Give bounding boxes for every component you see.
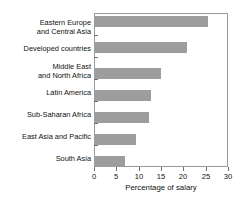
bar-developed-countries — [94, 42, 187, 53]
x-tick-30 — [228, 167, 229, 171]
x-tick-label-0: 0 — [84, 172, 104, 181]
bar-chart: Eastern Europe and Central Asia Develope… — [0, 0, 241, 199]
x-tick-label-15: 15 — [151, 172, 171, 181]
y-tick-4 — [94, 123, 98, 124]
x-tick-label-10: 10 — [129, 172, 149, 181]
y-tick-2 — [94, 79, 98, 80]
x-tick-0 — [94, 167, 95, 171]
x-tick-10 — [139, 167, 140, 171]
y-tick-5 — [94, 145, 98, 146]
y-tick-3 — [94, 101, 98, 102]
bar-latin-america — [94, 90, 151, 101]
bar-sub-saharan-africa — [94, 112, 149, 123]
category-label-4: Sub-Saharan Africa — [3, 111, 91, 120]
x-tick-5 — [116, 167, 117, 171]
category-label-1: Developed countries — [3, 45, 91, 54]
category-label-2: Middle East and North Africa — [3, 63, 91, 80]
bar-south-asia — [94, 156, 125, 167]
x-tick-label-30: 30 — [218, 172, 238, 181]
x-tick-25 — [206, 167, 207, 171]
x-tick-15 — [161, 167, 162, 171]
x-tick-label-5: 5 — [106, 172, 126, 181]
x-tick-20 — [183, 167, 184, 171]
category-label-6: South Asia — [3, 155, 91, 164]
y-tick-0 — [94, 35, 98, 36]
x-tick-label-25: 25 — [196, 172, 216, 181]
category-label-0: Eastern Europe and Central Asia — [3, 19, 91, 36]
x-axis-title: Percentage of salary — [94, 183, 228, 192]
category-label-3: Latin America — [3, 89, 91, 98]
bar-middle-east-and-north-africa — [94, 68, 161, 79]
y-tick-1 — [94, 57, 98, 58]
bar-east-asia-and-pacific — [94, 134, 136, 145]
category-label-5: East Asia and Pacific — [3, 133, 91, 142]
x-tick-label-20: 20 — [173, 172, 193, 181]
bar-eastern-europe-and-central-asia — [94, 16, 208, 27]
